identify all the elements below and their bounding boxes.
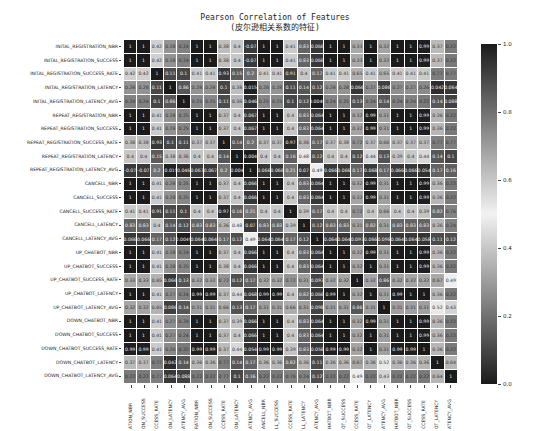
heatmap-cell: 0.99 [391, 288, 403, 301]
heatmap-cell: 0.4 [284, 178, 296, 191]
heatmap-cell: 0.77 [151, 370, 163, 383]
heatmap-cell: 0.068 [244, 288, 256, 301]
heatmap-cell: 0.31 [258, 301, 270, 314]
heatmap-cell: 1 [204, 178, 216, 191]
heatmap-cell: 0.4 [324, 150, 336, 163]
heatmap-cell: 0.41 [151, 343, 163, 356]
heatmap-cell: 1 [124, 329, 136, 342]
heatmap-cell: 0.83 [405, 219, 417, 232]
column-label: HATBOT_NBR [394, 389, 399, 429]
heatmap-cell: 0.17 [311, 205, 323, 218]
heatmap-cell: 0.41 [151, 109, 163, 122]
heatmap-cell: 0.12 [311, 81, 323, 94]
heatmap-cell: 0.64 [431, 370, 443, 383]
heatmap-cell: 0.52 [431, 301, 443, 314]
heatmap-cell: 0.17 [311, 68, 323, 81]
heatmap-cell: 0.042 [431, 81, 443, 94]
heatmap-cell: 1 [191, 191, 203, 204]
heatmap-cell: 0.054 [244, 343, 256, 356]
heatmap-cell: 0.24 [445, 219, 457, 232]
heatmap-cell: 0.25 [177, 260, 189, 273]
x-tick [184, 385, 185, 388]
heatmap-cell: 1 [324, 178, 336, 191]
heatmap-cell: 0.22 [445, 246, 457, 259]
heatmap-cell: 1 [271, 123, 283, 136]
heatmap-cell: 0.41 [151, 329, 163, 342]
heatmap-cell: 0.72 [218, 274, 230, 287]
heatmap-cell: 0.28 [164, 54, 176, 67]
heatmap-cell: 0.064 [405, 233, 417, 246]
heatmap-cell: 0.83 [298, 315, 310, 328]
heatmap-cell: 1 [364, 54, 376, 67]
heatmap-cell: 0.32 [271, 274, 283, 287]
heatmap-cell: 0.064 [271, 233, 283, 246]
heatmap-cell: 1 [298, 219, 310, 232]
heatmap-cell: 0.13 [231, 301, 243, 314]
heatmap-cell: 0.058 [311, 343, 323, 356]
heatmap-cell: 0.36 [338, 356, 350, 369]
heatmap-cell: 0.91 [151, 205, 163, 218]
x-tick [304, 385, 305, 388]
heatmap-cell: 0.41 [151, 260, 163, 273]
column-label: OT_SUCCESS [407, 389, 412, 429]
heatmap-cell: 0.086 [164, 301, 176, 314]
heatmap-cell: 0.4 [391, 205, 403, 218]
heatmap-cell: 1 [351, 274, 363, 287]
heatmap-cell: 0.41 [338, 68, 350, 81]
x-tick [437, 385, 438, 388]
heatmap-cell: 1 [391, 329, 403, 342]
heatmap-cell: 0.99 [364, 123, 376, 136]
heatmap-cell: 0.77 [445, 68, 457, 81]
heatmap-cell: 0.38 [231, 81, 243, 94]
heatmap-cell: 0.31 [324, 301, 336, 314]
heatmap-cell: 1 [191, 54, 203, 67]
heatmap-cell: 0.21 [284, 164, 296, 177]
heatmap-cell: 1 [405, 260, 417, 273]
heatmap-cell: 0.37 [218, 288, 230, 301]
heatmap-cell: 0.11 [284, 81, 296, 94]
heatmap-cell: 0.28 [164, 123, 176, 136]
heatmap-cell: 0.1 [151, 95, 163, 108]
heatmap-cell: 0.066 [338, 164, 350, 177]
heatmap-cell: 0.12 [231, 233, 243, 246]
heatmap-cell: 0.2 [244, 68, 256, 81]
heatmap-cell: 0.77 [445, 136, 457, 149]
column-label: ATENCY_AVG [248, 389, 253, 429]
heatmap-cell: 0.064 [391, 233, 403, 246]
colorbar-tick-label: 0.6 [498, 177, 512, 183]
x-tick [211, 385, 212, 388]
heatmap-cell: 1 [137, 109, 149, 122]
heatmap-cell: 0.33 [137, 274, 149, 287]
heatmap-cell: 0.99 [258, 288, 270, 301]
heatmap-cell: 0.31 [418, 301, 430, 314]
heatmap-cell: 0.83 [391, 219, 403, 232]
heatmap-cell: 1 [137, 260, 149, 273]
heatmap-cell: 0.14 [378, 95, 390, 108]
heatmap-cell: 1 [391, 54, 403, 67]
heatmap-cell: 0.14 [231, 356, 243, 369]
heatmap-cell: 0.82 [298, 288, 310, 301]
heatmap-cell: 0.25 [258, 95, 270, 108]
heatmap-cell: 0.99 [324, 288, 336, 301]
heatmap-cell: 1 [271, 246, 283, 259]
heatmap-cell: 0.97 [218, 205, 230, 218]
heatmap-cell: 1 [191, 246, 203, 259]
heatmap-cell: 0.39 [284, 343, 296, 356]
heatmap-cell: 0.41 [364, 68, 376, 81]
heatmap-cell: 1 [311, 233, 323, 246]
heatmap-cell: 0.36 [431, 123, 443, 136]
heatmap-cell: 1 [164, 81, 176, 94]
heatmap-cell: 1 [391, 40, 403, 53]
heatmap-cell: 0.41 [151, 315, 163, 328]
x-tick [397, 385, 398, 388]
heatmap-cell: 0.32 [378, 54, 390, 67]
heatmap-cell: 0.31 [351, 219, 363, 232]
column-label: OT_SUCCESS [341, 389, 346, 429]
heatmap-cell: 0.99 [418, 109, 430, 122]
heatmap-cell: 0.13 [177, 274, 189, 287]
heatmap-cell: 0.066 [364, 233, 376, 246]
heatmap-cell: 0.14 [164, 219, 176, 232]
heatmap-cell: 0.39 [418, 205, 430, 218]
heatmap-cell: 0.24 [177, 329, 189, 342]
heatmap-cell: 0.4 [271, 150, 283, 163]
